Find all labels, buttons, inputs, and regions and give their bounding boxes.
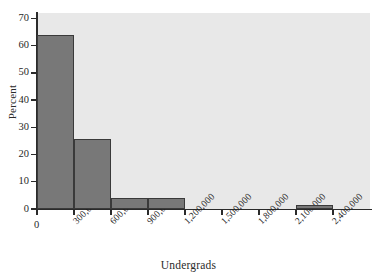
y-tick-label: 30 [0, 122, 29, 133]
histogram-bar [74, 139, 111, 209]
histogram-bar [37, 35, 74, 209]
histogram-figure: Percent 010203040506070 0300,000600,0009… [0, 0, 377, 280]
y-tick-label: 40 [0, 95, 29, 106]
y-tick-label: 70 [0, 13, 29, 24]
x-axis-title: Undergrads [0, 259, 377, 271]
y-tick-label: 0 [0, 204, 29, 215]
histogram-bar [296, 205, 333, 209]
histogram-bar [148, 198, 185, 209]
y-tick-label: 60 [0, 40, 29, 51]
y-tick-label: 50 [0, 67, 29, 78]
x-tick-label: 0 [34, 219, 39, 230]
y-tick-label: 20 [0, 149, 29, 160]
y-tick-mark [31, 18, 37, 19]
y-tick-label: 10 [0, 176, 29, 187]
histogram-bar [111, 198, 148, 209]
x-tick-mark [36, 209, 37, 215]
